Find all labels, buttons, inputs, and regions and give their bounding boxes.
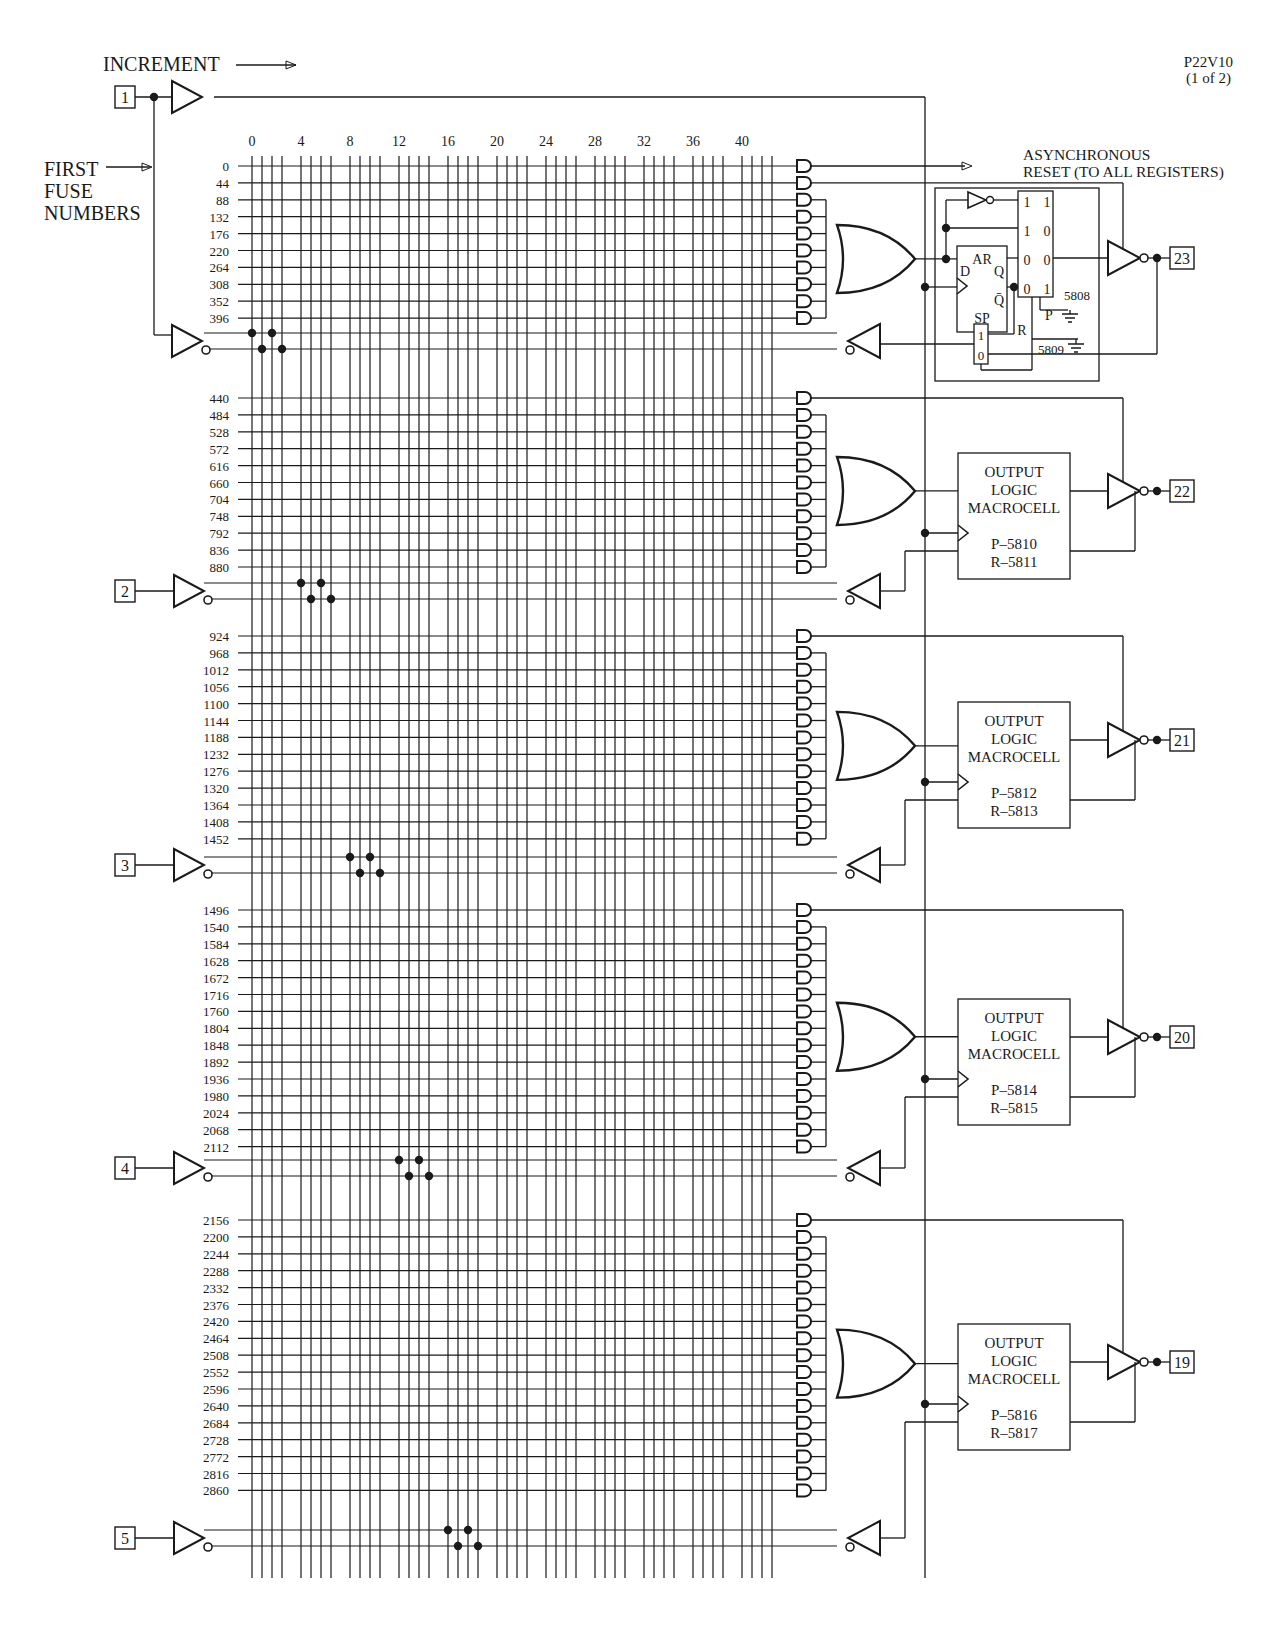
and-gate-icon — [797, 715, 811, 727]
and-gate-icon — [797, 392, 811, 404]
and-gate-icon — [797, 1231, 811, 1243]
and-gate-icon — [797, 1141, 811, 1153]
and-gate-icon — [797, 1022, 811, 1034]
and-gate-icon — [797, 972, 811, 984]
and-gate-icon — [797, 1299, 811, 1311]
and-gate-icon — [797, 799, 811, 811]
and-gate-icon — [797, 938, 811, 950]
fuse-row-label: 748 — [210, 509, 230, 524]
macrocell-title: OUTPUT — [984, 1010, 1043, 1026]
fuse-row-label: 704 — [210, 492, 230, 507]
fuse-row-label: 616 — [210, 459, 230, 474]
fuse-row-label: 1452 — [203, 832, 229, 847]
junction-dot — [258, 345, 266, 353]
inverter-bubble-icon — [846, 346, 854, 354]
and-gate-icon — [797, 443, 811, 455]
macrocell-r-fuse: R–5817 — [990, 1425, 1038, 1441]
mux-select-bit: 0 — [1024, 253, 1031, 268]
fuse-row-label: 1584 — [203, 937, 230, 952]
p-fuse-number: 5808 — [1064, 288, 1090, 303]
junction-dot — [395, 1156, 403, 1164]
fuse-row-label: 2596 — [203, 1382, 230, 1397]
fuse-row-label: 1848 — [203, 1038, 229, 1053]
and-gate-icon — [797, 1056, 811, 1068]
q-label: Q — [994, 264, 1004, 279]
and-gate-icon — [797, 1451, 811, 1463]
and-gate-icon — [797, 816, 811, 828]
fuse-row-label: 440 — [210, 391, 230, 406]
macrocell-title: MACROCELL — [968, 500, 1061, 516]
input-buffer-icon — [174, 575, 204, 607]
mux-select-bit: 1 — [1024, 224, 1031, 239]
inverter-bubble-icon — [202, 346, 210, 354]
junction-dot — [356, 869, 364, 877]
input-buffer-icon — [174, 1152, 204, 1184]
fuse-row-label: 660 — [210, 476, 230, 491]
inverter-bubble-icon — [846, 1543, 854, 1551]
and-gate-icon — [797, 1468, 811, 1480]
and-gate-icon — [797, 245, 811, 257]
column-number-label: 0 — [249, 134, 256, 149]
fuse-row-label: 1056 — [203, 680, 230, 695]
or-gate-icon — [837, 225, 915, 293]
input-buffer-icon — [174, 849, 204, 881]
and-gate-icon — [797, 194, 811, 206]
fuse-row-label: 1408 — [203, 815, 229, 830]
and-gate-icon — [797, 630, 811, 642]
fuse-row-label: 2288 — [203, 1264, 229, 1279]
fuse-row-label: 2772 — [203, 1450, 229, 1465]
and-gate-icon — [797, 527, 811, 539]
and-gate-icon — [797, 1124, 811, 1136]
junction-dot — [1153, 1033, 1161, 1041]
and-gate-icon — [797, 312, 811, 324]
column-number-label: 40 — [735, 134, 749, 149]
mux-select-bit: 1 — [1044, 282, 1051, 297]
and-gate-icon — [797, 955, 811, 967]
and-gate-icon — [797, 426, 811, 438]
macrocell-p-fuse: P–5814 — [991, 1082, 1037, 1098]
clock-buffer-icon — [172, 81, 202, 113]
junction-dot — [444, 1526, 452, 1534]
output-pin-label: 20 — [1174, 1029, 1190, 1046]
mux-select-bit: 0 — [1024, 282, 1031, 297]
mux2-input: 1 — [978, 328, 985, 343]
fuse-row-label: 44 — [216, 176, 230, 191]
macrocell-r-fuse: R–5815 — [990, 1100, 1038, 1116]
junction-dot — [346, 853, 354, 861]
fuse-row-label: 1980 — [203, 1089, 229, 1104]
and-gate-icon — [797, 261, 811, 273]
fuse-row-label: 1672 — [203, 971, 229, 986]
fuse-row-label: 2508 — [203, 1348, 229, 1363]
column-number-label: 12 — [392, 134, 406, 149]
fuse-row-label: 176 — [210, 227, 230, 242]
inverter-bubble-icon — [987, 197, 994, 204]
fuse-row-label: 2024 — [203, 1106, 230, 1121]
fuse-row-label: 1628 — [203, 954, 229, 969]
fuse-row-label: 132 — [210, 210, 230, 225]
column-number-label: 32 — [637, 134, 651, 149]
or-gate-icon — [837, 457, 915, 525]
input-pin-1-label: 1 — [121, 89, 129, 106]
inverter-icon — [968, 192, 986, 208]
fuse-row-label: 2640 — [203, 1399, 229, 1414]
and-gate-icon — [797, 765, 811, 777]
and-gate-icon — [797, 160, 811, 172]
macrocell-title: LOGIC — [991, 1028, 1037, 1044]
fuse-row-label: 1760 — [203, 1004, 229, 1019]
and-gate-icon — [797, 1107, 811, 1119]
and-gate-icon — [797, 1090, 811, 1102]
and-gate-icon — [797, 647, 811, 659]
fuse-row-label: 2552 — [203, 1365, 229, 1380]
fuse-row-label: 2464 — [203, 1331, 230, 1346]
and-gate-icon — [797, 211, 811, 223]
macrocell-p-fuse: P–5810 — [991, 536, 1037, 552]
fuse-grid — [252, 156, 772, 1578]
macrocell-r-fuse: R–5813 — [990, 803, 1038, 819]
fuse-row-label: 1540 — [203, 920, 229, 935]
fuse-row-label: 484 — [210, 408, 230, 423]
input-pin-4-label: 4 — [121, 1160, 129, 1177]
junction-dot — [297, 579, 305, 587]
and-gate-icon — [797, 1265, 811, 1277]
fuse-row-label: 2112 — [203, 1140, 229, 1155]
or-gate-icon — [837, 1330, 915, 1398]
